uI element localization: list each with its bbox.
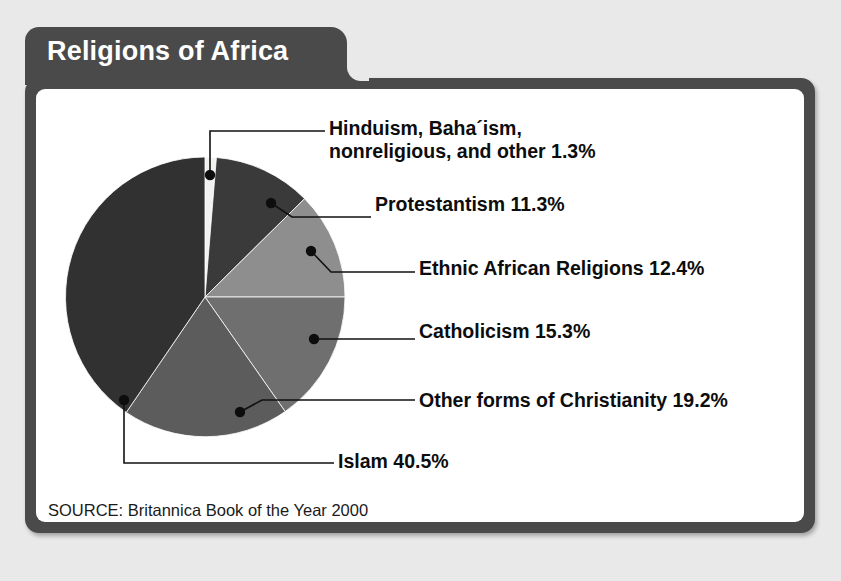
page-title: Religions of Africa bbox=[47, 36, 288, 67]
slice-label-hinduism-line1: Hinduism, Baha´ism, bbox=[329, 117, 596, 140]
slice-label-protestantism: Protestantism 11.3% bbox=[375, 193, 565, 216]
slice-label-islam: Islam 40.5% bbox=[338, 450, 449, 473]
slice-label-hinduism: Hinduism, Baha´ism, nonreligious, and ot… bbox=[329, 117, 596, 163]
slice-label-catholicism: Catholicism 15.3% bbox=[419, 320, 590, 343]
slice-label-ethnic-african: Ethnic African Religions 12.4% bbox=[419, 257, 704, 280]
slice-label-other-christianity: Other forms of Christianity 19.2% bbox=[419, 389, 728, 412]
source-note: SOURCE: Britannica Book of the Year 2000 bbox=[48, 501, 368, 520]
slice-label-hinduism-line2: nonreligious, and other 1.3% bbox=[329, 140, 596, 163]
